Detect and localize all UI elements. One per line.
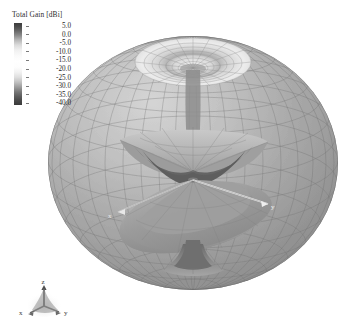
legend-tick: -5.0 xyxy=(26,39,90,47)
legend-tick-mark xyxy=(26,86,29,87)
legend-tick-value: 0.0 xyxy=(31,31,71,39)
triad-label-y: y xyxy=(64,309,68,317)
legend-tick: -15.0 xyxy=(26,56,90,64)
legend-title: Total Gain [dBi] xyxy=(12,10,100,19)
legend-tick: -20.0 xyxy=(26,65,90,73)
legend-tick-mark xyxy=(26,26,29,27)
legend-tick: -35.0 xyxy=(26,91,90,99)
triad-label-x: x xyxy=(19,309,23,317)
legend-tick-value: -15.0 xyxy=(31,56,71,64)
legend-tick-value: -5.0 xyxy=(31,39,71,47)
legend-tick: 5.0 xyxy=(26,22,90,30)
scene-axis-y-label: y xyxy=(271,203,275,211)
gain-legend: Total Gain [dBi] 5.0 0.0 -5.0 -10. xyxy=(8,10,100,108)
legend-tick: -10.0 xyxy=(26,48,90,56)
legend-tick-mark xyxy=(26,103,29,104)
legend-tick-value: -25.0 xyxy=(31,74,71,82)
triad-label-z: z xyxy=(42,278,45,286)
legend-colorbar xyxy=(14,23,22,105)
legend-tick-value: -20.0 xyxy=(31,65,71,73)
axis-triad-svg: z x y xyxy=(14,276,76,324)
legend-tick: -40.0 xyxy=(26,99,90,107)
legend-tick-value: -30.0 xyxy=(31,82,71,90)
legend-tick-value: 5.0 xyxy=(31,22,71,30)
legend-tick: 0.0 xyxy=(26,31,90,39)
legend-body: 5.0 0.0 -5.0 -10.0 -15.0 xyxy=(8,22,100,108)
legend-tick: -30.0 xyxy=(26,82,90,90)
legend-tick-mark xyxy=(26,77,29,78)
legend-tick-mark xyxy=(26,51,29,52)
scene-axis-x-label: x xyxy=(108,212,112,220)
legend-tick-value: -10.0 xyxy=(31,48,71,56)
legend-tick-mark xyxy=(26,69,29,70)
legend-tick: -25.0 xyxy=(26,74,90,82)
figure-canvas: y x Total Gain [dBi] 5.0 0.0 xyxy=(0,0,363,328)
legend-tick-mark xyxy=(26,94,29,95)
legend-tick-value: -40.0 xyxy=(31,99,71,107)
legend-tick-mark xyxy=(26,34,29,35)
legend-tick-mark xyxy=(26,60,29,61)
legend-tick-labels: 5.0 0.0 -5.0 -10.0 -15.0 xyxy=(26,22,96,106)
axis-triad[interactable]: z x y xyxy=(14,276,76,324)
legend-tick-value: -35.0 xyxy=(31,91,71,99)
legend-tick-mark xyxy=(26,43,29,44)
